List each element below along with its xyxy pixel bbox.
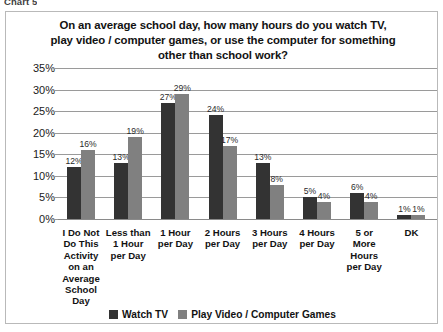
bar-play-video-computer-games[interactable]: 1% [411,215,425,219]
x-axis-category-label: 3 Hoursper Day [247,227,293,250]
bar-group: 13%19% [114,68,142,220]
bar-group: 24%17% [209,68,237,220]
chart-title-line-1: On an average school day, how many hours… [20,18,426,33]
y-axis-tick-label: 25% [33,106,55,117]
chart-number-caption: Chart 5 [4,0,37,7]
bar-value-label: 6% [351,183,363,192]
x-axis-category-label-line: per Day [341,261,387,272]
bar-group: 1%1% [397,68,425,220]
x-axis-category-label-line: per Day [105,250,151,261]
bar-value-label: 4% [365,192,377,201]
x-axis-category-label: 5 orMoreHoursper Day [341,227,387,273]
bar-play-video-computer-games[interactable]: 17% [223,146,237,219]
x-axis-category-label-line: Average [58,273,104,284]
x-axis-category-label-line: 1 Hour [105,238,151,249]
legend-label: Play Video / Computer Games [191,309,336,320]
bar-watch-tv[interactable]: 5% [303,197,317,219]
bar-group: 12%16% [67,68,95,220]
bar-play-video-computer-games[interactable]: 16% [81,150,95,219]
y-axis-tick-label: 10% [33,170,55,181]
bar-value-label: 1% [412,205,424,214]
legend-swatch-icon [178,310,187,319]
bar-value-label: 5% [304,187,316,196]
x-axis-category-label-line: Hours [341,250,387,261]
plot-area: 0%5%10%15%20%25%30%35% 12%16%13%19%27%29… [6,68,437,226]
bar-play-video-computer-games[interactable]: 8% [270,185,284,220]
x-axis-category-label: 2 Hoursper Day [200,227,246,250]
bar-value-label: 8% [271,175,283,184]
chart-figure-frame: On an average school day, how many hours… [5,11,438,324]
bar-value-label: 17% [221,136,238,145]
chart-title-line-3: other than school work? [20,48,426,63]
x-axis-category-label-line: Do This [58,238,104,249]
bars-layer: 12%16%13%19%27%29%24%17%13%8%5%4%6%4%1%1… [58,68,437,220]
x-axis-category-label-line: 5 or [341,227,387,238]
x-axis-category-label-line: More [341,238,387,249]
bar-play-video-computer-games[interactable]: 19% [128,137,142,219]
x-axis-category-label-line: per Day [247,238,293,249]
bar-watch-tv[interactable]: 13% [256,163,270,219]
x-axis-category-label: 1 Hourper Day [152,227,198,250]
x-axis-category-label-line: Less than [105,227,151,238]
bar-group: 5%4% [303,68,331,220]
legend-label: Watch TV [122,309,168,320]
x-axis-category-label-line: per Day [152,238,198,249]
y-axis: 0%5%10%15%20%25%30%35% [6,68,58,220]
x-axis-category-label-line: School [58,284,104,295]
legend-swatch-icon [109,310,118,319]
bar-value-label: 13% [254,153,271,162]
chart-legend: Watch TVPlay Video / Computer Games [6,309,439,320]
y-axis-tick-label: 30% [33,84,55,95]
bar-group: 6%4% [350,68,378,220]
x-axis-category-label: I Do NotDo ThisActivityon anAverageSchoo… [58,227,104,307]
x-axis-category-label-line: on an [58,261,104,272]
bar-play-video-computer-games[interactable]: 29% [175,94,189,219]
bar-group: 27%29% [161,68,189,220]
bar-group: 13%8% [256,68,284,220]
x-axis-category-label: 4 Hoursper Day [294,227,340,250]
bar-watch-tv[interactable]: 24% [209,115,223,219]
bar-value-label: 4% [318,192,330,201]
x-axis-category-label-line: per Day [200,238,246,249]
x-axis-category-label: DK [388,227,434,238]
x-axis-category-label-line: DK [388,227,434,238]
x-axis-category-labels: I Do NotDo ThisActivityon anAverageSchoo… [58,227,437,313]
bar-value-label: 24% [207,105,224,114]
x-axis-category-label-line: 1 Hour [152,227,198,238]
legend-item-watch-tv[interactable]: Watch TV [109,309,168,320]
bar-watch-tv[interactable]: 13% [114,163,128,219]
chart-title-line-2: play video / computer games, or use the … [20,33,426,48]
x-axis-category-label-line: Activity [58,250,104,261]
chart-title: On an average school day, how many hours… [20,18,426,64]
x-axis-category-label-line: 3 Hours [247,227,293,238]
bar-value-label: 19% [127,127,144,136]
x-axis-category-label-line: per Day [294,238,340,249]
bar-watch-tv[interactable]: 27% [161,103,175,219]
y-axis-tick-label: 15% [33,149,55,160]
x-axis-category-label-line: Day [58,295,104,306]
bar-value-label: 29% [174,84,191,93]
y-axis-tick-label: 20% [33,127,55,138]
bar-value-label: 16% [79,140,96,149]
y-axis-tick-label: 35% [33,63,55,74]
x-axis-category-label-line: 4 Hours [294,227,340,238]
bar-play-video-computer-games[interactable]: 4% [364,202,378,219]
x-axis-category-label-line: 2 Hours [200,227,246,238]
x-axis-category-label: Less than1 Hourper Day [105,227,151,261]
bar-value-label: 1% [398,205,410,214]
x-axis-category-label-line: I Do Not [58,227,104,238]
bar-watch-tv[interactable]: 12% [67,167,81,219]
bar-watch-tv[interactable]: 6% [350,193,364,219]
legend-item-play-video-computer-games[interactable]: Play Video / Computer Games [178,309,336,320]
bar-watch-tv[interactable]: 1% [397,215,411,219]
bar-play-video-computer-games[interactable]: 4% [317,202,331,219]
